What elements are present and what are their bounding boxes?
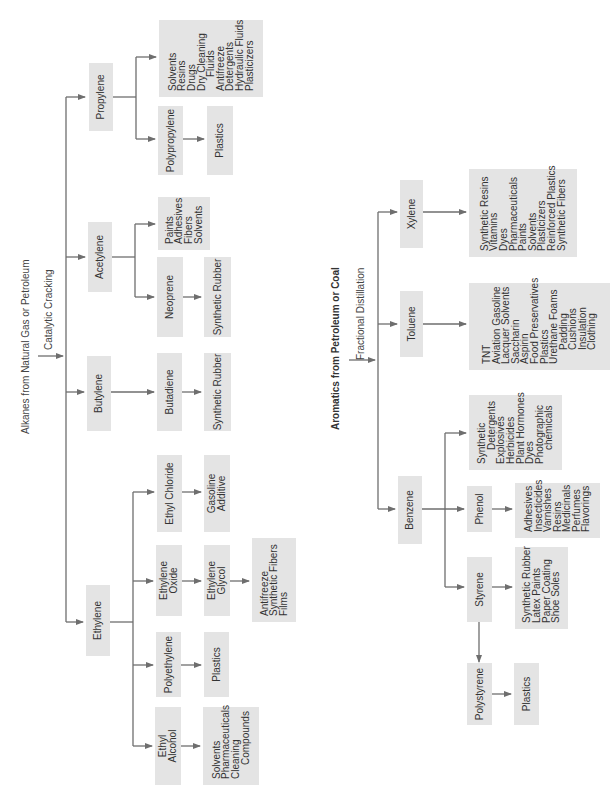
diagram-canvas: Alkanes from Natural Gas or Petroleum Ca… [0, 0, 615, 802]
node-label: Plastics [215, 123, 225, 157]
node-ethyl-chloride[interactable]: Ethyl Chloride [157, 455, 182, 532]
list-item: Plasticizers [245, 26, 255, 91]
node-label: Benzene [405, 490, 415, 529]
list-item: Shoe Soles [551, 553, 561, 623]
node-butylene[interactable]: Butylene [87, 356, 111, 431]
left-source-title: Alkanes from Natural Gas or Petroleum [20, 259, 31, 434]
node-label: Plastics [212, 647, 222, 681]
list-item: Flavorings [581, 489, 591, 532]
node-polypropylene-plastics[interactable]: Plastics [207, 106, 233, 175]
right-source-title: Aromatics from Petroleum or Coal [330, 267, 341, 430]
node-polyethylene-plastics[interactable]: Plastics [204, 632, 229, 697]
node-butadiene[interactable]: Butadiene [157, 353, 182, 431]
node-polystyrene-plastics[interactable]: Plastics [514, 663, 539, 725]
list-item: Compounds [241, 713, 251, 779]
node-label: Polystyrene [475, 668, 485, 720]
node-label: Polypropylene [166, 109, 176, 172]
node-label: Glycol [217, 567, 227, 595]
list-propylene-uses[interactable]: Solvents Resins Drugs Dry Cleaning Fluid… [159, 20, 263, 97]
node-gasoline-additive[interactable]: Gasoline Additive [204, 455, 230, 532]
node-label: Alcohol [168, 730, 178, 763]
node-label: Polyethylene [164, 636, 174, 693]
list-benzene-uses[interactable]: Synthetic Detergents Explosives Herbicid… [469, 395, 562, 470]
node-ethylene-glycol[interactable]: Ethylene Glycol [204, 545, 230, 616]
list-styrene-uses[interactable]: Synthetic Rubber Latex Paints Paper Coat… [515, 547, 568, 629]
node-label: Neoprene [165, 275, 175, 319]
list-ethyl-alcohol-uses[interactable]: Solvents Pharmaceuticals Cleaning Compou… [203, 707, 259, 785]
node-toluene[interactable]: Toluene [400, 291, 423, 357]
node-label: Styrene [475, 572, 485, 606]
list-item: Synthetic Fibers [557, 175, 567, 251]
node-xylene[interactable]: Xylene [400, 180, 423, 248]
node-neoprene[interactable]: Neoprene [157, 257, 183, 337]
list-ethylene-glycol-uses[interactable]: Antifreeze Synthetic Fibers Films [252, 538, 296, 622]
node-label: Toluene [407, 306, 417, 341]
node-butadiene-synthetic-rubber[interactable]: Synthetic Rubber [204, 353, 231, 431]
list-xylene-uses[interactable]: Synthetic Resins Vitamins Dyes Pharmaceu… [469, 169, 577, 257]
node-propylene[interactable]: Propylene [89, 63, 113, 131]
node-neoprene-synthetic-rubber[interactable]: Synthetic Rubber [204, 257, 231, 337]
node-label: Oxide [169, 567, 179, 593]
list-item: Solvents [194, 203, 204, 244]
node-acetylene[interactable]: Acetylene [88, 222, 112, 292]
list-phenol-uses[interactable]: Adhesives Insecticides Varnishes Resins … [515, 483, 600, 538]
node-ethylene[interactable]: Ethylene [86, 585, 110, 656]
node-label: Synthetic Rubber [213, 354, 223, 431]
node-label: Synthetic Rubber [213, 259, 223, 336]
node-label: Gasoline Additive [207, 455, 227, 532]
node-ethyl-alcohol[interactable]: Ethyl Alcohol [155, 707, 181, 785]
node-label: Xylene [407, 199, 417, 230]
node-label: Acetylene [95, 235, 105, 279]
node-label: Plastics [522, 677, 532, 711]
list-item: chemicals [544, 401, 554, 464]
node-benzene[interactable]: Benzene [398, 476, 422, 544]
list-toluene-uses[interactable]: TNT Aviation Gasoline Lacquer Solvents S… [469, 283, 610, 370]
node-label: Butadiene [165, 369, 175, 414]
node-polystyrene[interactable]: Polystyrene [467, 663, 492, 725]
node-label: Propylene [96, 74, 106, 119]
node-ethylene-oxide[interactable]: Ethylene Oxide [156, 545, 182, 616]
node-polypropylene[interactable]: Polypropylene [158, 106, 183, 175]
node-styrene[interactable]: Styrene [467, 557, 492, 622]
node-label: Ethyl Chloride [165, 462, 175, 524]
node-label: Butylene [94, 374, 104, 413]
list-item: Films [279, 544, 289, 616]
node-polyethylene[interactable]: Polyethylene [156, 632, 181, 697]
right-process-label: Fractional Distillation [355, 268, 366, 360]
node-phenol[interactable]: Phenol [467, 486, 492, 532]
list-acetylene-uses[interactable]: Paints Adhesives Fibers Solvents [158, 197, 210, 250]
node-label: Ethylene [93, 601, 103, 640]
left-process-label: Catalytic Cracking [43, 269, 54, 350]
list-item: Clothing [587, 289, 597, 364]
node-label: Phenol [475, 493, 485, 524]
